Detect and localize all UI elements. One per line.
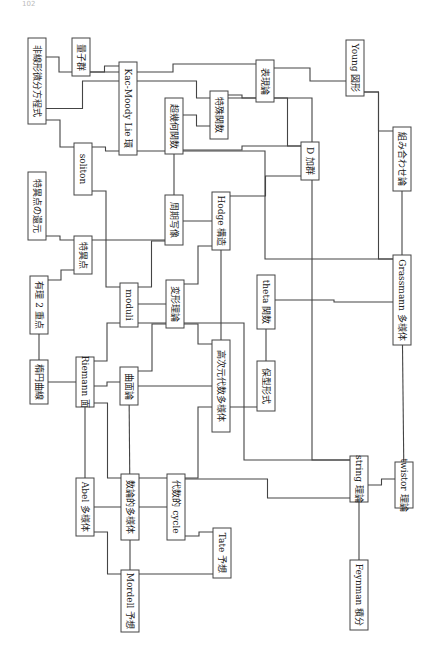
node-label: 周期写像 bbox=[169, 202, 180, 238]
node-representation: 表現論 bbox=[256, 60, 274, 102]
concept-diagram: 非線形微分方程式量子群Kac-Moody Lie 環soliton超幾何関数特殊… bbox=[0, 0, 438, 666]
edge-hypergeometric-d_module bbox=[174, 146, 310, 150]
node-special-functions: 特殊関数 bbox=[210, 91, 228, 139]
node-label: Tate 予想 bbox=[217, 533, 228, 573]
edge-quantum_group-representation bbox=[81, 64, 265, 72]
edge-algebraic_cycle-string bbox=[176, 479, 359, 498]
edge-modular-arithmetic bbox=[130, 407, 266, 478]
node-rational-double: 有理 2 重点 bbox=[30, 276, 48, 334]
node-label: 変形理論 bbox=[170, 286, 181, 322]
node-singular-point: 特異点 bbox=[74, 236, 92, 274]
edge-moduli-riemann bbox=[85, 323, 129, 361]
node-moduli: moduli bbox=[120, 283, 138, 327]
node-period-map: 周期写像 bbox=[165, 195, 183, 245]
node-label: 非線形微分方程式 bbox=[32, 45, 43, 117]
node-label: soliton bbox=[78, 154, 88, 185]
node-higher-dim: 高次元代数多様体 bbox=[212, 340, 230, 432]
node-label: Hodge 構造 bbox=[216, 196, 227, 247]
node-label: Grassmann 多様体 bbox=[397, 259, 408, 340]
edge-representation-young bbox=[265, 68, 355, 81]
edge-grassmann-theta bbox=[266, 300, 402, 302]
node-mordell: Mordell 予想 bbox=[121, 570, 139, 632]
node-label: 組み合わせ論 bbox=[397, 132, 408, 186]
node-label: 高次元代数多様体 bbox=[216, 350, 227, 422]
node-label: D 加群 bbox=[305, 147, 316, 175]
node-surface: 曲面論 bbox=[120, 367, 138, 405]
node-feynman: Feynman 積分 bbox=[350, 560, 368, 630]
node-singular-reduction: 特異点の還元 bbox=[28, 172, 46, 240]
node-hodge: Hodge 構造 bbox=[212, 192, 230, 250]
node-label: 数論的多様体 bbox=[125, 480, 136, 534]
node-label: 楕円曲線 bbox=[34, 364, 45, 400]
node-label: 表現論 bbox=[260, 68, 271, 95]
node-label: 曲面論 bbox=[124, 373, 135, 400]
node-label: string 理論 bbox=[354, 455, 365, 503]
node-nonlinear-pde: 非線形微分方程式 bbox=[28, 38, 46, 124]
node-theta: theta 関数 bbox=[257, 275, 275, 329]
node-label: twistor 理論 bbox=[399, 458, 410, 511]
node-label: moduli bbox=[124, 289, 134, 320]
node-label: 保型形式 bbox=[261, 368, 272, 404]
edge-hodge-d_module bbox=[221, 176, 310, 196]
node-elliptic: 楕円曲線 bbox=[30, 360, 48, 404]
node-label: Feynman 積分 bbox=[354, 564, 365, 627]
edge-moduli-string bbox=[129, 323, 359, 460]
node-label: 特異点 bbox=[78, 242, 89, 269]
node-label: Kac-Moody Lie 環 bbox=[123, 69, 133, 149]
edge-riemann-arithmetic bbox=[85, 403, 130, 478]
node-label: 量子群 bbox=[76, 44, 87, 71]
edge-representation-d_module bbox=[265, 98, 310, 146]
node-label: Abel 多様体 bbox=[80, 481, 91, 532]
node-label: 特異点の還元 bbox=[32, 179, 43, 233]
node-hypergeometric: 超幾何関数 bbox=[165, 98, 183, 154]
edge-hodge-deformation bbox=[175, 246, 221, 284]
node-quantum-group: 量子群 bbox=[72, 38, 90, 76]
node-combinatorics: 組み合わせ論 bbox=[393, 127, 411, 191]
node-grassmann: Grassmann 多様体 bbox=[393, 255, 411, 345]
node-arithmetic: 数論的多様体 bbox=[121, 474, 139, 540]
node-label: Young 図形 bbox=[350, 43, 361, 93]
node-modular: 保型形式 bbox=[257, 361, 275, 411]
node-riemann: Riemann 面 bbox=[76, 356, 94, 408]
node-label: 特殊関数 bbox=[214, 97, 225, 133]
edge-deformation-surface bbox=[129, 324, 175, 371]
node-label: 代数的 cycle bbox=[171, 480, 182, 533]
node-label: 超幾何関数 bbox=[169, 104, 180, 149]
node-soliton: soliton bbox=[74, 143, 92, 195]
node-deformation: 変形理論 bbox=[166, 280, 184, 328]
node-label: Mordell 予想 bbox=[125, 573, 136, 630]
node-string: string 理論 bbox=[350, 455, 368, 503]
node-label: Riemann 面 bbox=[80, 356, 90, 408]
node-tate: Tate 予想 bbox=[213, 528, 231, 578]
edge-nonlinear_pde-kac_moody bbox=[37, 81, 128, 109]
node-twistor: twistor 理論 bbox=[395, 458, 413, 511]
node-d-module: D 加群 bbox=[301, 142, 319, 180]
node-kac-moody: Kac-Moody Lie 環 bbox=[119, 62, 137, 155]
node-abel: Abel 多様体 bbox=[76, 478, 94, 536]
edge-kac_moody-representation bbox=[128, 81, 265, 98]
node-young: Young 図形 bbox=[346, 40, 364, 96]
node-label: 有理 2 重点 bbox=[34, 281, 45, 328]
node-label: theta 関数 bbox=[261, 280, 272, 325]
node-algebraic-cycle: 代数的 cycle bbox=[167, 474, 185, 540]
